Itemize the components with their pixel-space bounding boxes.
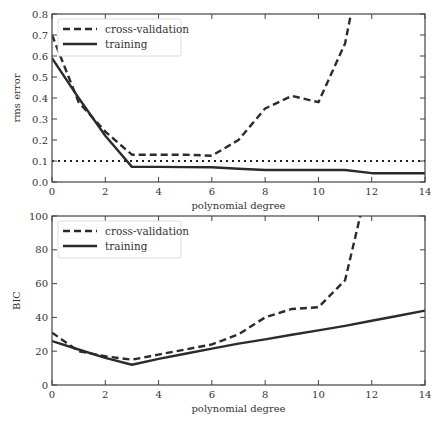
x-tick-label: 8	[262, 186, 268, 197]
y-tick-label: 0.2	[32, 135, 48, 146]
y-tick-label: 0	[42, 380, 48, 391]
x-tick-label: 8	[262, 389, 268, 400]
x-tick-label: 10	[312, 389, 325, 400]
x-axis-label: polynomial degree	[191, 200, 285, 211]
y-tick-label: 20	[35, 346, 48, 357]
x-tick-label: 12	[365, 186, 378, 197]
y-tick-label: 80	[35, 244, 48, 255]
y-tick-label: 100	[29, 211, 48, 222]
y-axis-label: rms error	[11, 73, 22, 122]
chart-panel-1: 024681012140.00.10.20.30.40.50.60.70.8po…	[11, 4, 431, 212]
figure: 024681012140.00.10.20.30.40.50.60.70.8po…	[0, 0, 443, 425]
x-tick-label: 2	[102, 186, 108, 197]
legend-label: training	[105, 38, 148, 50]
y-tick-label: 60	[35, 278, 48, 289]
y-tick-label: 0.1	[32, 156, 48, 167]
y-tick-label: 0.3	[32, 114, 48, 125]
y-tick-label: 0.8	[32, 9, 48, 20]
y-tick-label: 0.0	[32, 177, 48, 188]
x-tick-label: 6	[209, 389, 215, 400]
x-tick-label: 10	[312, 186, 325, 197]
chart-panel-2: 02468101214020406080100polynomial degree…	[11, 211, 431, 415]
legend-label: cross-validation	[105, 225, 189, 237]
x-tick-label: 6	[209, 186, 215, 197]
x-tick-label: 14	[419, 186, 432, 197]
x-tick-label: 4	[155, 186, 161, 197]
series-training	[52, 58, 425, 173]
x-tick-label: 2	[102, 389, 108, 400]
y-tick-label: 0.7	[32, 30, 48, 41]
x-tick-label: 0	[49, 186, 55, 197]
series-training	[52, 311, 425, 365]
x-tick-label: 4	[155, 389, 161, 400]
y-tick-label: 0.5	[32, 72, 48, 83]
legend-label: training	[105, 240, 148, 252]
y-axis-label: BIC	[11, 291, 22, 310]
y-tick-label: 0.6	[32, 51, 48, 62]
legend: cross-validationtraining	[58, 221, 189, 258]
y-tick-label: 40	[35, 312, 48, 323]
legend-label: cross-validation	[105, 23, 189, 35]
x-tick-label: 14	[419, 389, 432, 400]
x-tick-label: 0	[49, 389, 55, 400]
x-tick-label: 12	[365, 389, 378, 400]
y-tick-label: 0.4	[32, 93, 48, 104]
legend: cross-validationtraining	[58, 19, 189, 56]
x-axis-label: polynomial degree	[191, 403, 285, 414]
